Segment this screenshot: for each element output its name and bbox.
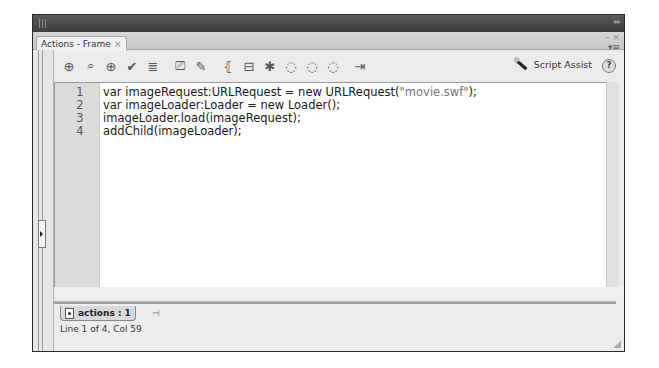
line-number: 4 (61, 125, 99, 138)
show-hide-toolbox-icon[interactable]: ⇥ (351, 57, 369, 75)
insert-target-path-icon[interactable]: ⊕ (102, 57, 120, 75)
code-area[interactable]: var imageRequest:URLRequest = new URLReq… (103, 86, 607, 138)
tab-close-icon[interactable]: × (114, 37, 122, 51)
actions-toolbar: ⊕ ⌕ ⊕ ✔ ≣ ⎚ ✎ ⦃ ⊟ ✱ ◌ ◌ ◌ ⇥ Script Assis… (54, 50, 624, 82)
magic-wand-icon (514, 59, 527, 70)
tab-actions-frame[interactable]: Actions - Frame × (36, 36, 127, 51)
script-assist-button[interactable]: Script Assist (514, 59, 592, 70)
code-text: ); (469, 85, 477, 99)
frame-script-icon (65, 308, 74, 319)
debug-options-icon[interactable]: ✎ (192, 57, 210, 75)
script-assist-label: Script Assist (534, 59, 592, 70)
script-editor[interactable]: 1 2 3 4 var imageRequest:URLRequest = ne… (54, 82, 607, 288)
status-bar-text: Line 1 of 4, Col 59 (60, 324, 142, 334)
toolbox-collapse-handle[interactable] (38, 220, 46, 248)
remove-comment-icon[interactable]: ◌ (324, 57, 342, 75)
collapse-to-icons-button[interactable]: ▸▸ (614, 17, 620, 26)
horizontal-scroll-area (54, 287, 624, 297)
tab-label: Actions - Frame (41, 37, 111, 51)
auto-format-icon[interactable]: ≣ (144, 57, 162, 75)
window-controls: – × (605, 33, 620, 41)
script-tab-actions-1[interactable]: actions : 1 (60, 306, 136, 321)
check-syntax-icon[interactable]: ✔ (123, 57, 141, 75)
panel-title-bar[interactable]: ▸▸ (33, 15, 624, 32)
code-text: var imageLoader:Loader = new Loader(); (103, 98, 340, 112)
apply-line-comment-icon[interactable]: ◌ (303, 57, 321, 75)
show-code-hint-icon[interactable]: ⎚ (171, 57, 189, 75)
find-icon[interactable]: ⌕ (81, 57, 99, 75)
code-line: addChild(imageLoader); (103, 125, 607, 138)
expand-all-icon[interactable]: ✱ (261, 57, 279, 75)
string-literal: "movie.swf" (400, 85, 469, 99)
apply-block-comment-icon[interactable]: ◌ (282, 57, 300, 75)
code-text: var imageRequest:URLRequest = new URLReq… (103, 85, 400, 99)
collapse-between-braces-icon[interactable]: ⦃ (219, 57, 237, 75)
add-statement-icon[interactable]: ⊕ (60, 57, 78, 75)
pin-script-icon[interactable]: ⊣ (152, 308, 160, 318)
panel-tab-strip: Actions - Frame × – × ▾≡ (33, 32, 624, 50)
help-icon[interactable]: ? (602, 59, 616, 73)
close-button[interactable]: × (612, 32, 620, 42)
minimize-button[interactable]: – (605, 32, 610, 42)
code-text: addChild(imageLoader); (103, 124, 242, 138)
drag-grip-icon[interactable] (39, 19, 47, 28)
actions-panel: ▸▸ Actions - Frame × – × ▾≡ ⊕ ⌕ ⊕ ✔ ≣ ⎚ … (32, 14, 625, 352)
script-navigator: actions : 1 ⊣ Line 1 of 4, Col 59 (54, 304, 624, 351)
line-number-gutter: 1 2 3 4 (55, 83, 100, 288)
script-tab-label: actions : 1 (78, 308, 131, 318)
collapse-selection-icon[interactable]: ⊟ (240, 57, 258, 75)
actions-toolbox-strip (33, 50, 54, 351)
resize-grip-icon[interactable] (614, 341, 621, 348)
code-text: imageLoader.load(imageRequest); (103, 111, 301, 125)
vertical-scrollbar[interactable] (606, 82, 619, 287)
